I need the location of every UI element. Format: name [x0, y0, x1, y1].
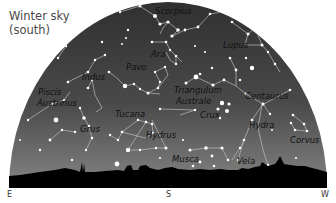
label-hydra: Hydra: [249, 120, 275, 130]
label-hydrus: Hydrus: [146, 130, 177, 140]
direction-west: W: [321, 190, 329, 199]
label-triangulum: Triangulum: [174, 85, 222, 95]
label-australe: Australe: [175, 96, 211, 106]
star-chart: Scorpius Ara Lupus Pavo Indus Piscis Aus…: [0, 0, 336, 203]
label-musca: Musca: [172, 154, 199, 164]
label-pavo: Pavo: [126, 62, 147, 72]
direction-east: E: [7, 190, 12, 199]
label-lupus: Lupus: [223, 40, 249, 50]
label-indus: Indus: [82, 72, 106, 82]
label-corvus: Corvus: [290, 135, 320, 145]
label-ara: Ara: [150, 49, 166, 59]
label-grus: Grus: [80, 124, 100, 134]
label-centaurus: Centaurus: [245, 91, 289, 101]
label-piscis: Piscis: [38, 87, 62, 97]
label-vela: Vela: [237, 156, 255, 166]
label-scorpius: Scorpius: [155, 6, 192, 16]
label-crux: Crux: [200, 110, 221, 120]
direction-south: S: [166, 190, 171, 199]
label-tucana: Tucana: [115, 109, 145, 119]
label-austrinus: Austrinus: [36, 98, 78, 108]
